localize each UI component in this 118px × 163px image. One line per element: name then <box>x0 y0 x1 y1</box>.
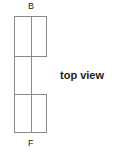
view-caption: top view <box>60 69 104 81</box>
bottom-box <box>15 95 47 133</box>
top-box <box>15 17 47 57</box>
back-label: B <box>28 2 34 11</box>
top-view-diagram <box>0 0 118 163</box>
front-label: F <box>28 139 34 148</box>
